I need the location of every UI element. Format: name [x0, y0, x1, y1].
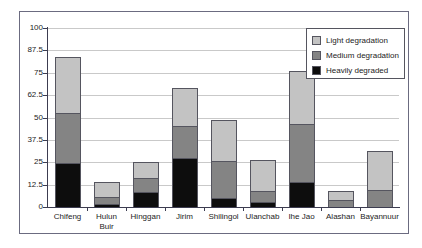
legend-entry: Light degradation — [312, 34, 400, 47]
bar-segment-light — [172, 88, 198, 126]
y-tick-label: 37.5 — [5, 136, 43, 144]
bar-segment-medium — [172, 126, 198, 157]
gridline — [48, 95, 399, 96]
y-tick-label: 50 — [5, 114, 43, 122]
y-tick-mark — [43, 207, 48, 208]
stacked-bar — [94, 182, 120, 207]
y-tick-label: 12.5 — [5, 181, 43, 189]
x-tick-label-line: Bayannuur — [352, 212, 408, 222]
x-tick-label-line: Buir — [79, 222, 135, 232]
x-tick-mark — [165, 207, 166, 211]
bar-segment-heavy — [211, 198, 237, 207]
x-tick-mark — [243, 207, 244, 211]
y-tick-mark — [43, 50, 48, 51]
bar-segment-light — [133, 162, 159, 178]
bar-segment-medium — [289, 124, 315, 182]
y-tick-mark — [43, 185, 48, 186]
legend-entry: Medium degradation — [312, 49, 400, 62]
bar-segment-heavy — [289, 182, 315, 207]
stacked-bar — [133, 162, 159, 207]
x-axis-line — [47, 207, 400, 208]
x-tick-mark — [360, 207, 361, 211]
bar-segment-medium — [211, 161, 237, 198]
bar-segment-heavy — [133, 192, 159, 207]
y-tick-label: 25 — [5, 158, 43, 166]
y-tick-label: 75 — [5, 69, 43, 77]
stacked-bar — [250, 160, 276, 207]
y-tick-mark — [43, 162, 48, 163]
stacked-bar — [172, 88, 198, 207]
bar-segment-medium — [367, 190, 393, 207]
bar-segment-medium — [94, 197, 120, 204]
gridline — [48, 118, 399, 119]
bar-segment-light — [55, 57, 81, 113]
x-tick-mark — [282, 207, 283, 211]
x-tick-mark — [321, 207, 322, 211]
bar-segment-light — [211, 120, 237, 161]
y-tick-label: 62.5 — [5, 91, 43, 99]
bar-segment-medium — [55, 113, 81, 163]
y-tick-mark — [43, 140, 48, 141]
bar-segment-light — [94, 182, 120, 197]
x-tick-mark — [204, 207, 205, 211]
y-tick-mark — [43, 118, 48, 119]
y-tick-label: 0 — [5, 203, 43, 211]
bar-segment-medium — [328, 200, 354, 207]
bar-segment-light — [328, 191, 354, 200]
legend-label: Heavily degraded — [326, 66, 388, 75]
y-tick-mark — [43, 28, 48, 29]
legend-label: Light degradation — [326, 36, 388, 45]
stacked-bar — [367, 151, 393, 207]
stacked-bar — [55, 57, 81, 207]
x-tick-label: Bayannuur — [352, 212, 408, 222]
legend-swatch — [312, 66, 321, 75]
y-tick-mark — [43, 95, 48, 96]
legend-entry: Heavily degraded — [312, 64, 400, 77]
stacked-bar — [211, 120, 237, 207]
legend-swatch — [312, 36, 321, 45]
stacked-bar — [289, 71, 315, 207]
bar-segment-medium — [133, 178, 159, 191]
y-tick-mark — [43, 73, 48, 74]
bar-segment-heavy — [172, 158, 198, 207]
legend-label: Medium degradation — [326, 51, 399, 60]
x-tick-mark — [87, 207, 88, 211]
legend-swatch — [312, 51, 321, 60]
chart-figure: 012.52537.55062.57587.5100 ChifengHulunB… — [0, 0, 422, 248]
x-tick-mark — [126, 207, 127, 211]
bar-segment-heavy — [55, 163, 81, 207]
y-tick-label: 87.5 — [5, 46, 43, 54]
stacked-bar — [328, 191, 354, 207]
y-axis-labels: 012.52537.55062.57587.5100 — [0, 0, 43, 248]
bar-segment-light — [367, 151, 393, 190]
bar-segment-medium — [250, 191, 276, 202]
y-tick-label: 100 — [5, 24, 43, 32]
chart-legend: Light degradationMedium degradationHeavi… — [306, 28, 405, 79]
bar-segment-light — [250, 160, 276, 191]
